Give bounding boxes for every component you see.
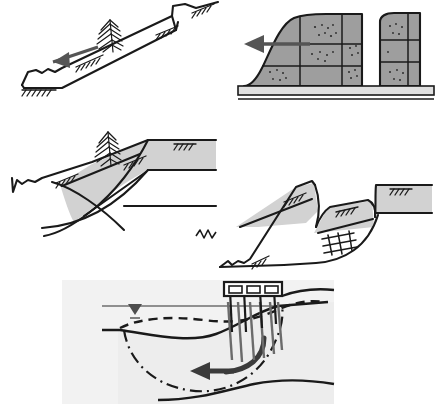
- figure-root: Types of seismically induced ground fail…: [0, 0, 437, 408]
- panel-rotational-slump: [0, 118, 225, 250]
- original-ground-line: [196, 230, 216, 238]
- wharf-deck: [224, 282, 282, 296]
- toe-bulge: [22, 85, 24, 88]
- soil-block: [380, 13, 420, 86]
- ground-tick-marks: [22, 90, 56, 96]
- panel-translational-slide: [0, 0, 225, 112]
- ground-surface-line: [22, 2, 218, 85]
- panel-lateral-spread: [232, 0, 437, 112]
- shear-zone-hatch: [322, 231, 357, 255]
- tree-symbol: [97, 20, 123, 52]
- ground-tick-marks: [252, 256, 269, 269]
- upper-slide-block: [236, 183, 318, 227]
- liquefiable-base-layer: [238, 86, 434, 95]
- failure-surface-arc: [220, 265, 284, 267]
- panel-waterfront-failure: [58, 276, 388, 408]
- lower-slide-block: [314, 201, 374, 233]
- panel-multiblock-slump: [218, 155, 437, 280]
